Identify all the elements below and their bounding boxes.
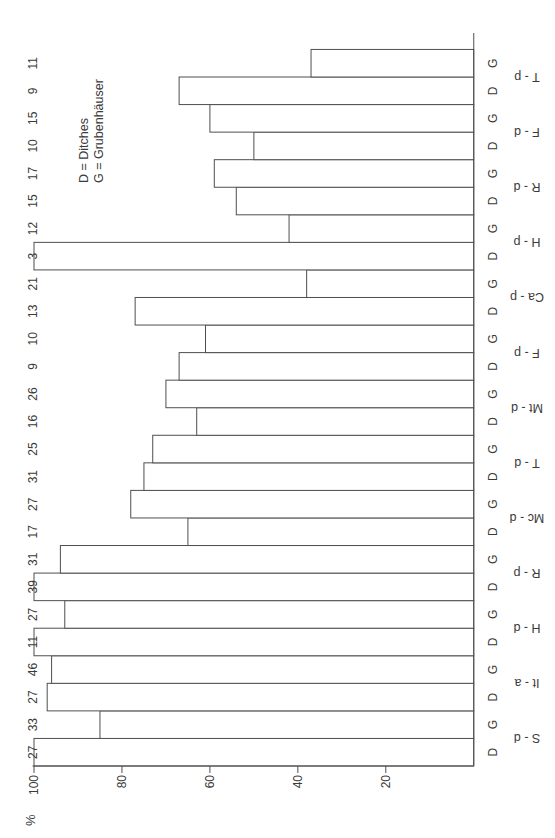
category-label: Mt - d — [511, 401, 543, 415]
bar-G — [206, 325, 474, 353]
bar-chart: 27D33GS - d27D46GIt - a11D27GH - d39D31G… — [0, 0, 555, 838]
bar-D — [34, 242, 474, 270]
bar-D — [34, 628, 474, 656]
bar-group-label: D — [486, 692, 500, 701]
bar-G — [52, 656, 474, 684]
bar-group-label: G — [486, 279, 500, 288]
y-tick-label: 80 — [115, 775, 129, 789]
sample-size-label: 15 — [26, 194, 40, 208]
bar-group-label: G — [486, 444, 500, 453]
bar-group-label: G — [486, 114, 500, 123]
y-tick-label: 40 — [291, 775, 305, 789]
category-label: T - d — [514, 456, 540, 470]
rotated-chart-container: 27D33GS - d27D46GIt - a11D27GH - d39D31G… — [0, 0, 555, 838]
sample-size-label: 31 — [26, 470, 40, 484]
bar-D — [144, 463, 474, 491]
bar-G — [65, 601, 474, 629]
bar-group-label: G — [486, 389, 500, 398]
sample-size-label: 12 — [26, 222, 40, 236]
category-label: Mc - d — [510, 511, 545, 525]
sample-size-label: 11 — [26, 57, 40, 70]
sample-size-label: 21 — [26, 277, 40, 291]
bar-group-label: G — [486, 59, 500, 68]
bar-group-label: G — [486, 500, 500, 509]
bar-group-label: D — [486, 307, 500, 316]
y-tick-label: 20 — [379, 775, 393, 789]
bar-group-label: D — [486, 251, 500, 260]
category-label: F - p — [514, 346, 540, 360]
bar-group-label: G — [486, 224, 500, 233]
sample-size-label: 3 — [26, 252, 40, 259]
bar-group-label: G — [486, 665, 500, 674]
category-label: R - p — [513, 566, 540, 580]
bar-group-label: G — [486, 555, 500, 564]
bar-D — [179, 353, 474, 381]
sample-size-label: 39 — [26, 580, 40, 594]
category-label: It - a — [514, 676, 539, 690]
bar-group-label: D — [486, 748, 500, 757]
bar-D — [34, 573, 474, 601]
sample-size-label: 25 — [26, 442, 40, 456]
bar-D — [135, 297, 474, 325]
sample-size-label: 31 — [26, 552, 40, 566]
bar-D — [197, 408, 474, 436]
bar-D — [47, 683, 474, 711]
category-label: Ca - p — [510, 290, 544, 304]
bar-G — [60, 546, 473, 574]
bar-D — [236, 187, 473, 215]
bar-group-label: D — [486, 582, 500, 591]
bar-G — [153, 435, 474, 463]
bar-D — [254, 132, 474, 160]
bar-group-label: D — [486, 362, 500, 371]
category-label: H - p — [513, 235, 540, 249]
category-label: T - p — [514, 70, 540, 84]
sample-size-label: 17 — [26, 166, 40, 180]
category-label: R - d — [513, 180, 540, 194]
legend-line: G = Grubenhäuser — [92, 79, 106, 183]
sample-size-label: 27 — [26, 497, 40, 511]
bar-G — [210, 105, 474, 133]
category-label: H - d — [513, 621, 540, 635]
bar-group-label: G — [486, 169, 500, 178]
bar-D — [188, 518, 474, 546]
bar-group-label: D — [486, 196, 500, 205]
sample-size-label: 9 — [26, 87, 40, 94]
sample-size-label: 27 — [26, 690, 40, 704]
bar-G — [166, 380, 474, 408]
bar-group-label: D — [486, 637, 500, 646]
sample-size-label: 16 — [26, 415, 40, 429]
bar-D — [179, 77, 474, 105]
sample-size-label: 13 — [26, 304, 40, 318]
y-tick-label: 100 — [27, 775, 41, 795]
scanned-figure-page: 27D33GS - d27D46GIt - a11D27GH - d39D31G… — [0, 0, 555, 838]
bar-G — [307, 270, 474, 298]
sample-size-label: 17 — [26, 525, 40, 539]
bar-G — [100, 711, 474, 739]
bar-group-label: D — [486, 417, 500, 426]
sample-size-label: 10 — [26, 332, 40, 346]
sample-size-label: 27 — [26, 745, 40, 759]
bar-group-label: D — [486, 141, 500, 150]
legend-line: D = Ditches — [77, 118, 91, 183]
bar-G — [289, 215, 474, 243]
sample-size-label: 9 — [26, 363, 40, 370]
sample-size-label: 26 — [26, 387, 40, 401]
category-label: S - d — [514, 731, 540, 745]
bar-D — [34, 738, 474, 766]
bar-G — [131, 490, 474, 518]
sample-size-label: 10 — [26, 139, 40, 153]
bar-G — [311, 49, 474, 77]
bar-group-label: G — [486, 334, 500, 343]
sample-size-label: 11 — [26, 635, 40, 648]
bar-group-label: G — [486, 720, 500, 729]
sample-size-label: 46 — [26, 663, 40, 677]
bar-group-label: G — [486, 610, 500, 619]
bar-group-label: D — [486, 86, 500, 95]
category-label: F - d — [514, 125, 540, 139]
sample-size-label: 33 — [26, 718, 40, 732]
bar-group-label: D — [486, 527, 500, 536]
bar-G — [214, 160, 473, 188]
sample-size-label: 27 — [26, 607, 40, 621]
sample-size-label: 15 — [26, 111, 40, 125]
y-tick-label: 60 — [203, 775, 217, 789]
